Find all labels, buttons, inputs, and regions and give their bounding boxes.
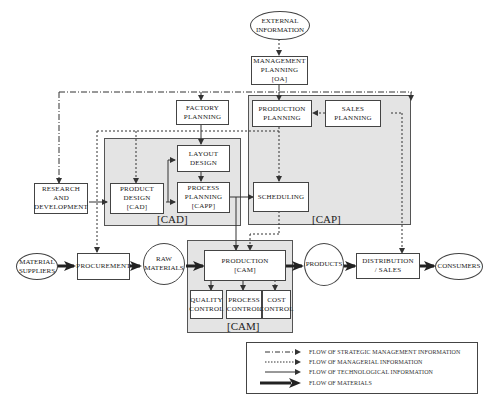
factory-planning-node: FACTORY PLANNING [176, 100, 229, 125]
legend-item-materials: FLOW OF MATERIALS [255, 378, 372, 388]
distribution-sales-node: DISTRIBUTION / SALES [356, 253, 420, 279]
external-information-node: EXTERNAL INFORMATION [250, 11, 310, 40]
legend: FLOW OF STRATEGIC MANAGEMENT INFORMATION… [246, 342, 478, 394]
legend-label: FLOW OF STRATEGIC MANAGEMENT INFORMATION [309, 349, 460, 355]
scheduling-node: SCHEDULING [253, 182, 309, 212]
legend-item-strategic: FLOW OF STRATEGIC MANAGEMENT INFORMATION [255, 347, 460, 357]
layout-design-node: LAYOUT DESIGN [177, 145, 230, 172]
products-node: PRODUCTS [304, 243, 344, 286]
legend-item-managerial: FLOW OF MANAGERIAL INFORMATION [255, 357, 423, 367]
consumers-node: CONSUMERS [435, 253, 483, 280]
dotted-arrow-icon [255, 357, 301, 367]
dash-dot-arrow-icon [255, 347, 301, 357]
diagram-canvas: [CAD] [CAP] [CAM] [0, 0, 490, 406]
production-node: PRODUCTION [CAM] [204, 250, 286, 281]
process-control-node: PROCESS CONTROL [226, 290, 262, 319]
research-development-node: RESEARCH AND DEVELOPMENT [34, 183, 88, 214]
legend-label: FLOW OF MANAGERIAL INFORMATION [309, 359, 423, 365]
raw-materials-node: RAW MATERIALS [143, 243, 185, 285]
material-suppliers-node: MATERIAL SUPPLIERS [16, 253, 58, 280]
thick-arrow-icon [255, 378, 301, 388]
quality-control-node: QUALITY CONTROL [190, 290, 223, 319]
product-design-node: PRODUCT DESIGN [CAD] [110, 183, 164, 214]
legend-item-technological: FLOW OF TECHNOLOGICAL INFORMATION [255, 367, 433, 377]
sales-planning-node: SALES PLANNING [325, 100, 381, 127]
solid-arrow-icon [255, 367, 301, 377]
legend-label: FLOW OF TECHNOLOGICAL INFORMATION [309, 369, 433, 375]
process-planning-node: PROCESS PLANNING [CAPP] [177, 182, 230, 213]
cost-control-node: COST CONTROL [262, 290, 291, 319]
production-planning-node: PRODUCTION PLANNING [252, 100, 312, 127]
legend-label: FLOW OF MATERIALS [309, 380, 372, 386]
management-planning-node: MANAGEMENT PLANNING [OA] [251, 56, 308, 85]
procurement-node: PROCUREMENT [77, 253, 130, 280]
